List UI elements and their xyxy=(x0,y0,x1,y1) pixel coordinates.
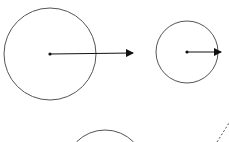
large-arrow xyxy=(50,53,133,54)
large-arrow-origin-dot xyxy=(48,52,51,55)
bottom-circle-partial xyxy=(65,130,145,142)
diagram-canvas xyxy=(0,0,229,142)
small-arrow-origin-dot xyxy=(185,50,188,53)
dashed-line xyxy=(217,123,229,142)
